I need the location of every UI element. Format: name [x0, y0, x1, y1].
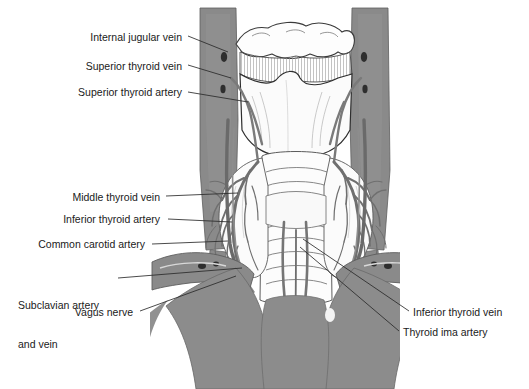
label-middle-thyroid-vein: Middle thyroid vein: [30, 191, 160, 204]
anatomy-figure-page: Internal jugular vein Superior thyroid v…: [0, 0, 529, 389]
label-vagus-nerve: Vagus nerve: [63, 306, 133, 319]
label-subclavian-artery-and-vein: Subclavian artery and vein: [18, 273, 128, 377]
label-internal-jugular-vein: Internal jugular vein: [40, 31, 182, 44]
label-thyroid-ima-artery: Thyroid ima artery: [403, 326, 515, 339]
thyroid-isthmus: [266, 192, 326, 229]
label-subclavian-line-2: and vein: [18, 338, 128, 351]
label-common-carotid-artery: Common carotid artery: [5, 238, 145, 251]
label-superior-thyroid-vein: Superior thyroid vein: [40, 60, 182, 73]
label-superior-thyroid-artery: Superior thyroid artery: [30, 86, 182, 99]
label-inferior-thyroid-vein: Inferior thyroid vein: [413, 306, 525, 319]
label-inferior-thyroid-artery: Inferior thyroid artery: [20, 213, 160, 226]
